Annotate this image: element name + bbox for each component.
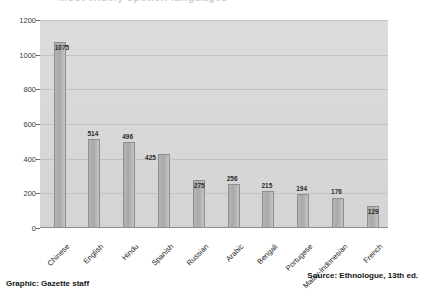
bar-value-label: 1075 xyxy=(55,45,69,52)
bar[interactable] xyxy=(332,198,344,229)
bar-value-label: 514 xyxy=(87,131,98,138)
x-axis-category-label: Russian xyxy=(185,242,211,268)
bar[interactable] xyxy=(123,142,135,228)
bar-value-label: 425 xyxy=(145,155,156,162)
x-axis-category-label: English xyxy=(82,242,106,266)
bar-column[interactable] xyxy=(158,20,170,228)
y-axis-tick-label: 200 xyxy=(2,189,36,198)
x-axis-category-label: Bengali xyxy=(256,242,280,266)
graphic-credit: Graphic: Gazette staff xyxy=(6,279,89,288)
bar-value-label: 496 xyxy=(122,134,133,141)
bar-chart: 020040060080010001200 107551449642527525… xyxy=(0,10,425,242)
y-axis-tick-label: 400 xyxy=(2,154,36,163)
bar-column[interactable] xyxy=(228,20,240,228)
y-axis-tick-label: 600 xyxy=(2,120,36,129)
x-axis-labels: ChineseEnglishHinduSpanishRussianArabicB… xyxy=(40,242,388,288)
bar[interactable] xyxy=(54,42,66,228)
bar-value-label: 256 xyxy=(227,176,238,183)
y-axis-tick-mark xyxy=(36,228,40,229)
bar-value-label: 194 xyxy=(296,186,307,193)
bar-column[interactable] xyxy=(332,20,344,228)
y-axis-tick-label: 1000 xyxy=(2,50,36,59)
x-axis-category-label: Portugese xyxy=(284,242,315,273)
bar[interactable] xyxy=(297,194,309,228)
x-axis-category-label: Arabic xyxy=(224,242,245,263)
bar-column[interactable] xyxy=(123,20,135,228)
bar[interactable] xyxy=(158,154,170,228)
cropped-title-sliver: Most widely spoken languages xyxy=(0,0,425,9)
bar-value-label: 176 xyxy=(331,189,342,196)
y-axis-tick-label: 0 xyxy=(2,224,36,233)
bar[interactable] xyxy=(262,191,274,228)
x-axis-category-label: Chinese xyxy=(45,242,71,268)
bar-column[interactable] xyxy=(367,20,379,228)
x-axis-category-label: French xyxy=(361,242,384,265)
bar-column[interactable] xyxy=(262,20,274,228)
x-axis-category-label: Hindu xyxy=(120,242,140,262)
bar[interactable] xyxy=(88,139,100,228)
chart-title-text: Most widely spoken languages xyxy=(58,0,228,3)
bar-series: 1075514496425275256215194176129 xyxy=(40,20,388,228)
bar-column[interactable] xyxy=(54,20,66,228)
bar-value-label: 215 xyxy=(261,183,272,190)
x-axis-category-label: Spanish xyxy=(150,242,176,268)
bar-column[interactable] xyxy=(297,20,309,228)
bar-value-label: 275 xyxy=(194,183,205,190)
y-axis-tick-label: 1200 xyxy=(2,16,36,25)
source-credit: Source: Ethnologue, 13th ed. xyxy=(307,271,418,280)
y-axis-tick-label: 800 xyxy=(2,85,36,94)
bar[interactable] xyxy=(228,184,240,228)
bar-column[interactable] xyxy=(88,20,100,228)
bar-column[interactable] xyxy=(193,20,205,228)
bar-value-label: 129 xyxy=(368,209,379,216)
